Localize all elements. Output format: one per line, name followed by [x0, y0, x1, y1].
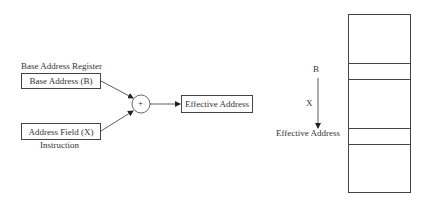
- base-address-box: Base Address (B): [21, 73, 101, 89]
- memory-divider: [349, 144, 410, 145]
- register-caption: Base Address Register: [21, 61, 102, 72]
- base-address-label: Base Address (B): [30, 76, 93, 86]
- memory-divider: [349, 63, 410, 64]
- field-to-adder-arrow: [101, 111, 133, 131]
- instruction-caption: Instruction: [40, 140, 79, 151]
- memory-divider: [349, 79, 410, 80]
- effective-address-box: Effective Address: [181, 95, 253, 113]
- base-label: B: [313, 64, 319, 75]
- memory-divider: [349, 128, 410, 129]
- adder-symbol: +: [138, 98, 143, 109]
- memory-block: [348, 14, 411, 193]
- result-label: Effective Address: [276, 128, 340, 139]
- address-field-label: Address Field (X): [29, 127, 94, 137]
- effective-address-label: Effective Address: [185, 99, 249, 109]
- base-to-adder-arrow: [101, 81, 133, 98]
- address-field-box: Address Field (X): [21, 123, 101, 140]
- offset-label: X: [306, 98, 313, 109]
